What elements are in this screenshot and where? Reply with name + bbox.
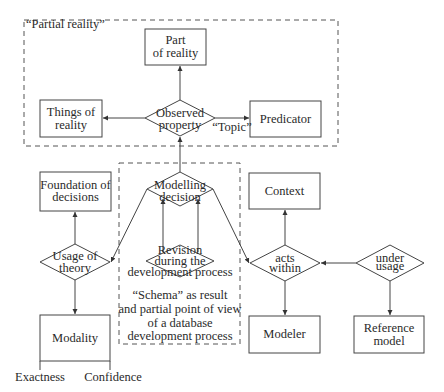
- svg-text:theory: theory: [59, 261, 92, 275]
- schema-description: “Schema” as result and partial point of …: [119, 288, 242, 343]
- entity-reference-model: Reference model: [354, 316, 424, 353]
- svg-text:model: model: [373, 334, 405, 348]
- svg-text:development process: development process: [127, 329, 232, 343]
- relationship-observed-property: Observed property: [145, 100, 215, 136]
- relationship-acts-within: acts within: [250, 245, 320, 281]
- attribute-confidence: Confidence: [84, 370, 142, 384]
- svg-text:Modeler: Modeler: [263, 327, 306, 341]
- svg-text:Predicator: Predicator: [260, 112, 312, 126]
- entity-part-of-reality: Part of reality: [145, 29, 206, 65]
- topic-edge-label: “Topic”: [212, 120, 251, 134]
- svg-text:Modality: Modality: [52, 331, 99, 345]
- relationship-modelling-decision: Modelling decision: [147, 172, 213, 206]
- relationship-revision: Revision during the development process: [127, 243, 232, 279]
- entity-modeler: Modeler: [249, 316, 320, 353]
- partial-reality-label: “Partial reality”: [26, 17, 105, 31]
- svg-text:reality: reality: [55, 118, 88, 132]
- entity-things-of-reality: Things of reality: [40, 100, 102, 137]
- svg-text:development process: development process: [127, 265, 232, 279]
- svg-text:of reality: of reality: [153, 46, 199, 60]
- svg-text:Reference: Reference: [364, 321, 415, 335]
- svg-text:decision: decision: [159, 190, 201, 204]
- svg-text:Context: Context: [265, 184, 305, 198]
- relationship-under-usage: under usage: [356, 245, 424, 281]
- svg-text:Part: Part: [165, 33, 186, 47]
- entity-context: Context: [249, 173, 320, 209]
- er-diagram: “Partial reality”: [0, 0, 444, 392]
- svg-text:within: within: [269, 261, 302, 275]
- svg-text:of a database: of a database: [147, 316, 213, 330]
- svg-text:property: property: [159, 118, 202, 132]
- relationship-usage-of-theory: Usage of theory: [40, 244, 110, 280]
- svg-text:usage: usage: [376, 259, 405, 273]
- svg-text:“Schema” as result: “Schema” as result: [132, 288, 228, 302]
- entity-foundation-of-decisions: Foundation of decisions: [40, 172, 112, 211]
- svg-text:decisions: decisions: [52, 190, 99, 204]
- svg-text:Things of: Things of: [47, 105, 96, 119]
- attribute-exactness: Exactness: [15, 370, 65, 384]
- entity-predicator: Predicator: [250, 101, 321, 137]
- entity-modality: Modality: [40, 315, 110, 361]
- svg-text:and partial point of view: and partial point of view: [119, 302, 242, 316]
